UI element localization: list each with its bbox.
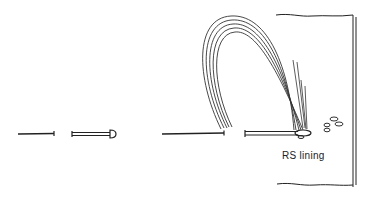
- threaded-needle-icon: [245, 130, 311, 139]
- stitch-marks-icon: [324, 117, 343, 132]
- needle-2-icon: [162, 131, 224, 136]
- needle-1-icon: [18, 131, 54, 136]
- thread-loop-icon: [203, 16, 303, 130]
- fabric-label: RS lining: [282, 150, 325, 161]
- sewing-diagram: [0, 0, 368, 198]
- lining-fabric: [276, 14, 356, 187]
- pin-icon: [72, 130, 116, 138]
- thread-tails-icon: [293, 60, 307, 129]
